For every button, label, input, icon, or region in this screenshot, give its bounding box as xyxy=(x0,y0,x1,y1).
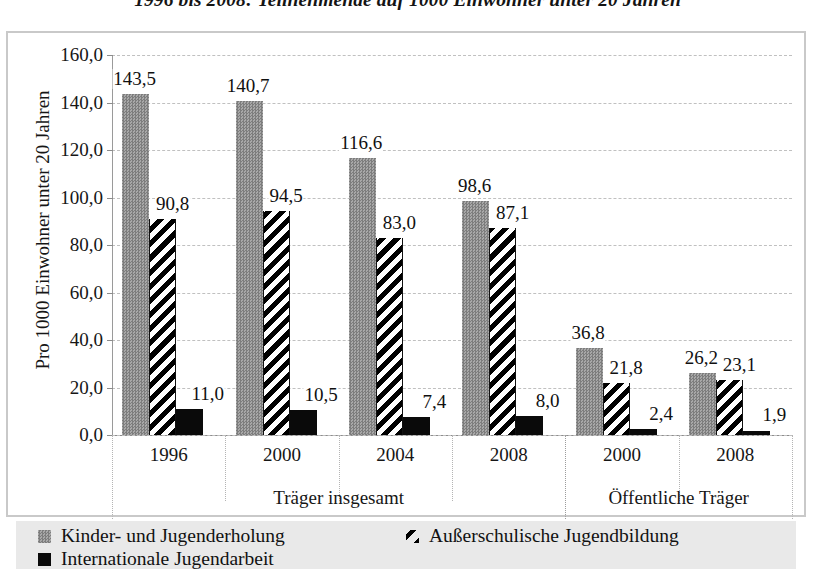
bar-value-label: 83,0 xyxy=(382,213,417,233)
legend-label: Außerschulische Jugendbildung xyxy=(429,525,679,547)
x-tick-label: 2008 xyxy=(490,444,528,466)
bar-value-label: 143,5 xyxy=(112,69,157,89)
bar-value-label: 36,8 xyxy=(570,323,605,343)
bar[interactable] xyxy=(689,373,716,435)
y-tick-label: 40,0 xyxy=(70,329,103,351)
bar-value-label: 140,7 xyxy=(226,76,271,96)
gridline xyxy=(112,198,792,199)
bar-value-label: 1,9 xyxy=(761,405,787,425)
bar-value-label: 2,4 xyxy=(648,404,674,424)
legend-item-ausserschulische-jugendbildung[interactable]: Außerschulische Jugendbildung xyxy=(406,525,679,547)
gridline xyxy=(112,55,792,56)
bar-value-label: 94,5 xyxy=(268,186,303,206)
x-tick-label: 1996 xyxy=(150,444,188,466)
legend-item-internationale-jugendarbeit[interactable]: Internationale Jugendarbeit xyxy=(38,548,274,570)
bar[interactable] xyxy=(516,416,543,435)
y-tick-mark xyxy=(107,55,113,56)
legend-label: Internationale Jugendarbeit xyxy=(61,548,274,570)
y-axis-title: Pro 1000 Einwohner unter 20 Jahren xyxy=(32,65,54,395)
group-label: Öffentliche Träger xyxy=(608,487,749,509)
y-tick-label: 120,0 xyxy=(60,139,103,161)
bar[interactable] xyxy=(630,429,657,435)
y-tick-label: 0,0 xyxy=(79,424,103,446)
x-tick-label: 2000 xyxy=(263,444,301,466)
y-tick-mark xyxy=(107,198,113,199)
legend-swatch-hatch-icon xyxy=(406,530,419,543)
bar-value-label: 87,1 xyxy=(495,203,530,223)
y-tick-mark xyxy=(107,150,113,151)
y-tick-mark xyxy=(107,245,113,246)
y-tick-mark xyxy=(107,103,113,104)
bar[interactable] xyxy=(603,383,630,435)
legend-item-kinder-und-jugenderholung[interactable]: Kinder- und Jugenderholung xyxy=(38,525,285,547)
category-separator xyxy=(792,435,793,519)
bar[interactable] xyxy=(122,94,149,435)
bar-value-label: 26,2 xyxy=(684,348,719,368)
bar[interactable] xyxy=(376,238,403,435)
legend-swatch-grey-icon xyxy=(38,530,51,543)
bar-value-label: 23,1 xyxy=(722,355,757,375)
legend-label: Kinder- und Jugenderholung xyxy=(61,525,285,547)
bar[interactable] xyxy=(176,409,203,435)
bar[interactable] xyxy=(403,417,430,435)
y-tick-label: 60,0 xyxy=(70,282,103,304)
y-tick-mark xyxy=(107,388,113,389)
bar[interactable] xyxy=(236,101,263,435)
bar-value-label: 8,0 xyxy=(535,391,561,411)
chart-title: 1996 bis 2008: Teilnehmende auf 1000 Ein… xyxy=(0,0,815,11)
y-tick-mark xyxy=(107,340,113,341)
gridline xyxy=(112,340,792,341)
bar[interactable] xyxy=(743,431,770,436)
legend-swatch-black-icon xyxy=(38,553,51,566)
group-separator xyxy=(565,435,566,519)
gridline xyxy=(112,293,792,294)
bar-value-label: 21,8 xyxy=(608,358,643,378)
y-tick-label: 140,0 xyxy=(60,92,103,114)
bar-value-label: 90,8 xyxy=(155,194,190,214)
y-tick-label: 100,0 xyxy=(60,187,103,209)
y-tick-label: 20,0 xyxy=(70,377,103,399)
y-tick-mark xyxy=(107,293,113,294)
bar[interactable] xyxy=(462,201,489,435)
chart-legend: Kinder- und Jugenderholung Außerschulisc… xyxy=(16,521,796,569)
bar-value-label: 10,5 xyxy=(303,385,338,405)
gridline xyxy=(112,103,792,104)
plot-area: 0,020,040,060,080,0100,0120,0140,0160,0 … xyxy=(112,55,792,435)
x-tick-label: 2000 xyxy=(603,444,641,466)
category-separator xyxy=(225,435,226,501)
bar[interactable] xyxy=(149,219,176,435)
bar-value-label: 116,6 xyxy=(339,133,383,153)
category-separator xyxy=(452,435,453,501)
bar[interactable] xyxy=(716,380,743,435)
bar-value-label: 98,6 xyxy=(457,176,492,196)
bar[interactable] xyxy=(576,348,603,435)
bar[interactable] xyxy=(290,410,317,435)
bar-value-label: 7,4 xyxy=(421,392,447,412)
x-tick-label: 2004 xyxy=(376,444,414,466)
bar-value-label: 11,0 xyxy=(190,384,225,404)
chart-frame: Pro 1000 Einwohner unter 20 Jahren 0,020… xyxy=(6,31,806,517)
bar[interactable] xyxy=(349,158,376,435)
y-tick-label: 80,0 xyxy=(70,234,103,256)
x-tick-label: 2008 xyxy=(716,444,754,466)
bar[interactable] xyxy=(263,211,290,435)
group-label: Träger insgesamt xyxy=(273,487,404,509)
category-separator xyxy=(112,435,113,519)
y-tick-label: 160,0 xyxy=(60,44,103,66)
gridline xyxy=(112,150,792,151)
bar[interactable] xyxy=(489,228,516,435)
gridline xyxy=(112,245,792,246)
